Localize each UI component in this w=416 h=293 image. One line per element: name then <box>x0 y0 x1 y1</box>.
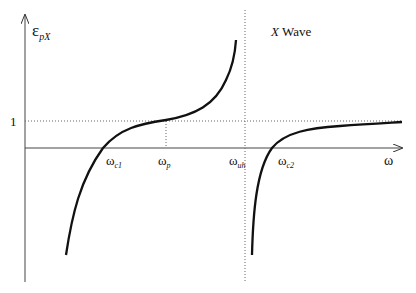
omega-c1-label: ωc1 <box>106 153 122 170</box>
x-axis-label: ω <box>384 153 393 168</box>
omega-uh-label: ωuh <box>229 153 246 170</box>
upper-branch-curve <box>252 122 402 255</box>
y-axis-label: εpX <box>32 21 51 42</box>
omega-p-label: ωp <box>158 153 171 170</box>
unity-tick-label: 1 <box>10 114 17 129</box>
omega-c2-label: ωc2 <box>278 153 294 170</box>
dispersion-diagram: εpX 1 X Wave ωc1 ωp ωuh ωc2 ω <box>0 0 416 293</box>
chart-title: X Wave <box>270 24 311 39</box>
